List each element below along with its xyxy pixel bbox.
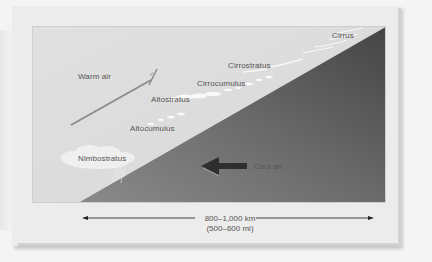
scale-arrow-left-icon (82, 216, 195, 220)
label-nimbostratus: Nimbostratus (78, 154, 126, 163)
label-cirrostratus: Cirrostratus (228, 61, 271, 70)
card-edge-right (398, 8, 401, 246)
label-cirrocumulus: Cirrocumulus (197, 79, 245, 88)
scale-mi: (500–600 mi) (180, 224, 280, 234)
warm-front-diagram: Warm air Cirrus Cirrostratus Cirrocumulu… (32, 26, 386, 203)
label-warm-air: Warm air (78, 72, 111, 81)
label-cool-air: Cool air (254, 162, 282, 171)
scale-label: 800–1,000 km (500–600 mi) (180, 214, 280, 234)
diagram-graphic (33, 27, 385, 202)
scale-km: 800–1,000 km (180, 214, 280, 224)
card-edge-bottom (18, 243, 401, 247)
label-altocumulus: Altocumulus (130, 124, 175, 133)
label-altostratus: Altostratus (151, 95, 190, 104)
label-cirrus: Cirrus (332, 31, 354, 40)
